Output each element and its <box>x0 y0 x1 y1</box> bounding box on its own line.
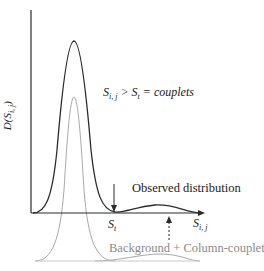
observed-distribution-label: Observed distribution <box>132 181 241 196</box>
background-curve <box>35 97 115 261</box>
couplet-condition-label: Si, j > St = couplets <box>103 85 194 101</box>
threshold-label: St <box>108 217 116 233</box>
distribution-diagram <box>0 0 264 271</box>
couplets-arrow-head-icon <box>166 216 172 223</box>
components-label: Background + Column-couplets <box>109 241 264 256</box>
x-axis-label: Si, j <box>193 216 207 232</box>
y-axis-label: D(Si, j) <box>1 101 16 130</box>
